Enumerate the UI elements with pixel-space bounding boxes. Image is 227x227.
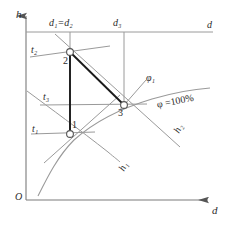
vertical-line-label-d3: d₃ [113, 18, 121, 28]
axis-label-d: d [212, 205, 218, 216]
diagram-svg [0, 0, 227, 227]
point-marker-1 [67, 131, 74, 138]
axis-label-h: h [16, 9, 22, 20]
point-label-2: 2 [63, 56, 68, 66]
process-segment-2-3 [70, 52, 124, 105]
vertical-line-label-d1-d2: d₁=d₂ [49, 18, 73, 28]
point-label-1: 1 [72, 120, 77, 130]
top-line-label-d: d [207, 20, 212, 30]
diagram-canvas: h d O d d₁=d₂ d₃ 1 2 3 t₁ t₂ t₃ h₁ h₂ φ₁… [0, 0, 227, 227]
isotherm-label-t2: t₂ [31, 45, 37, 55]
isotherm-t1 [31, 132, 95, 134]
isotherm-label-t1: t₁ [32, 124, 38, 134]
origin-label-O: O [15, 192, 22, 202]
isotherm-t3 [40, 104, 147, 105]
isotherm-label-t3: t₃ [43, 92, 49, 102]
point-label-3: 3 [118, 108, 123, 118]
humidity-label-phi1: φ₁ [146, 73, 155, 83]
